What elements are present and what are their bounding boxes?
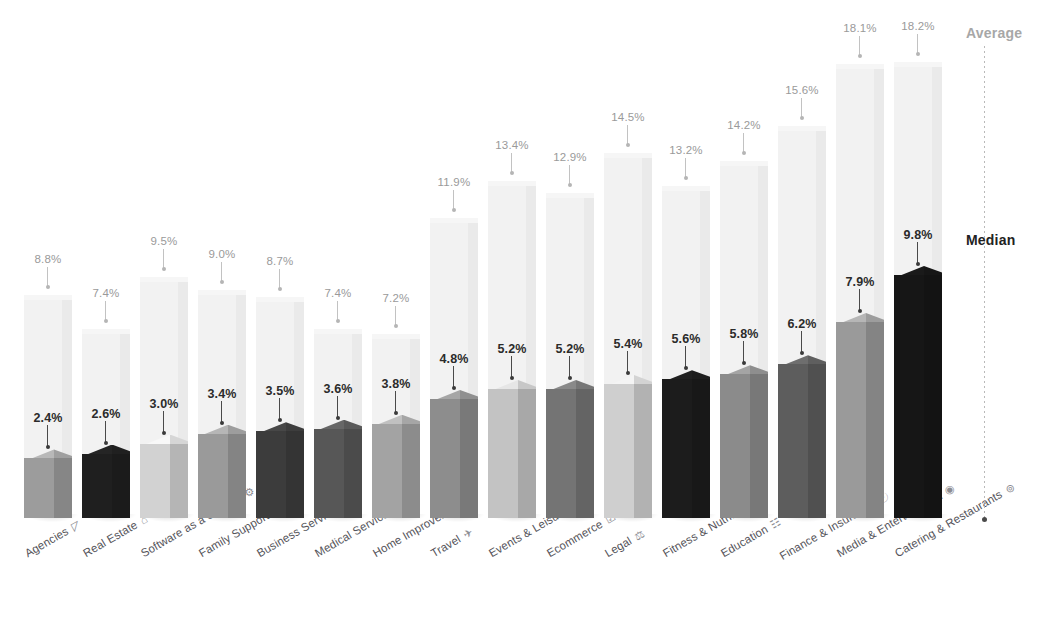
median-bar[interactable] xyxy=(256,431,304,518)
chart-legend: Average Median xyxy=(960,0,1052,638)
average-leader-line xyxy=(859,36,860,56)
median-bar[interactable] xyxy=(430,399,478,518)
median-bar[interactable] xyxy=(894,275,942,518)
plot-area: 8.8%2.4%Agencies◸7.4%2.6%Real Estate⌂9.5… xyxy=(0,0,1052,638)
median-bar[interactable] xyxy=(24,458,72,518)
median-leader-line xyxy=(917,242,918,264)
legend-axis-line xyxy=(984,46,985,520)
average-value-label: 14.2% xyxy=(709,120,779,132)
average-leader-dot xyxy=(742,151,746,155)
median-bar-face xyxy=(314,429,344,518)
median-bar-side xyxy=(228,434,246,518)
average-value-label: 13.4% xyxy=(477,140,547,152)
median-leader-dot xyxy=(278,418,282,422)
median-leader-dot xyxy=(104,441,108,445)
median-bar[interactable] xyxy=(82,454,130,518)
median-bar[interactable] xyxy=(198,434,246,518)
median-leader-dot xyxy=(684,366,688,370)
median-bar-side xyxy=(924,275,942,518)
average-value-label: 7.4% xyxy=(71,288,141,300)
median-bar[interactable] xyxy=(546,389,594,518)
average-value-label: 8.8% xyxy=(13,254,83,266)
median-leader-line xyxy=(47,425,48,447)
median-leader-line xyxy=(105,421,106,443)
average-leader-line xyxy=(47,267,48,287)
median-leader-dot xyxy=(394,411,398,415)
average-value-label: 14.5% xyxy=(593,112,663,124)
median-bar-face xyxy=(372,424,402,518)
median-bar-side xyxy=(402,424,420,518)
median-leader-line xyxy=(743,341,744,363)
average-leader-dot xyxy=(336,319,340,323)
median-leader-dot xyxy=(800,351,804,355)
median-bar[interactable] xyxy=(836,322,884,518)
median-value-label: 6.2% xyxy=(767,318,837,331)
average-leader-line xyxy=(337,301,338,321)
median-bar[interactable] xyxy=(488,389,536,518)
average-leader-dot xyxy=(800,116,804,120)
median-bar[interactable] xyxy=(662,379,710,518)
average-leader-dot xyxy=(104,319,108,323)
average-leader-line xyxy=(395,306,396,326)
average-leader-line xyxy=(279,269,280,289)
average-value-label: 11.9% xyxy=(419,177,489,189)
median-value-label: 9.8% xyxy=(883,229,953,242)
average-leader-line xyxy=(801,98,802,118)
average-leader-dot xyxy=(162,267,166,271)
median-bar-face xyxy=(662,379,692,518)
average-leader-dot xyxy=(394,324,398,328)
median-bar-face xyxy=(604,384,634,518)
megaphone-icon: ◸ xyxy=(69,518,83,533)
median-bar[interactable] xyxy=(604,384,652,518)
median-bar[interactable] xyxy=(140,444,188,518)
median-bar-face xyxy=(488,389,518,518)
median-bar-face xyxy=(778,364,808,518)
legend-label-average: Average xyxy=(966,25,1022,41)
average-leader-line xyxy=(105,301,106,321)
median-leader-dot xyxy=(336,416,340,420)
average-leader-line xyxy=(685,158,686,178)
median-leader-dot xyxy=(568,376,572,380)
average-leader-dot xyxy=(626,143,630,147)
average-leader-dot xyxy=(220,280,224,284)
median-leader-dot xyxy=(510,376,514,380)
median-bar-face xyxy=(430,399,460,518)
median-bar[interactable] xyxy=(778,364,826,518)
median-bar-face xyxy=(198,434,228,518)
median-bar-side xyxy=(460,399,478,518)
average-leader-line xyxy=(917,34,918,54)
median-bar[interactable] xyxy=(314,429,362,518)
median-leader-line xyxy=(511,356,512,378)
average-value-label: 18.2% xyxy=(883,21,953,33)
median-leader-line xyxy=(453,366,454,388)
median-bar-side xyxy=(112,454,130,518)
median-leader-line xyxy=(163,411,164,433)
median-bar-side xyxy=(750,374,768,518)
median-leader-line xyxy=(395,391,396,413)
play-icon: ◉ xyxy=(942,482,957,498)
median-bar-side xyxy=(634,384,652,518)
average-leader-dot xyxy=(568,183,572,187)
median-leader-dot xyxy=(742,361,746,365)
median-leader-line xyxy=(801,331,802,353)
median-bar-side xyxy=(808,364,826,518)
average-value-label: 7.2% xyxy=(361,293,431,305)
median-bar-side xyxy=(866,322,884,518)
average-leader-dot xyxy=(858,54,862,58)
average-leader-line xyxy=(163,249,164,269)
average-value-label: 8.7% xyxy=(245,256,315,268)
median-bar-face xyxy=(720,374,750,518)
average-leader-dot xyxy=(278,287,282,291)
average-value-label: 15.6% xyxy=(767,85,837,97)
median-leader-dot xyxy=(220,421,224,425)
median-leader-dot xyxy=(626,371,630,375)
average-leader-line xyxy=(743,133,744,153)
median-bar-face xyxy=(24,458,54,518)
median-bar[interactable] xyxy=(720,374,768,518)
median-bar[interactable] xyxy=(372,424,420,518)
average-leader-dot xyxy=(510,171,514,175)
median-leader-dot xyxy=(452,386,456,390)
median-bar-side xyxy=(692,379,710,518)
average-leader-dot xyxy=(46,285,50,289)
median-bar-face xyxy=(82,454,112,518)
